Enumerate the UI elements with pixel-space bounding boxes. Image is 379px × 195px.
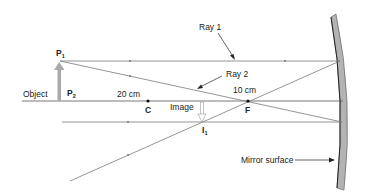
p2-label: P2 — [67, 88, 76, 99]
ray-2-arrow-marker — [129, 75, 131, 77]
p1-label: P1 — [56, 48, 65, 59]
ray-2-label: Ray 2 — [226, 69, 248, 79]
object-label: Object — [23, 89, 48, 99]
ray-2-reflected-marker — [127, 121, 129, 123]
ray-1-pointer-head — [230, 54, 235, 60]
image-label: Image — [170, 102, 194, 112]
mirror-pointer-head — [329, 158, 335, 163]
ray-1-label: Ray 1 — [199, 22, 221, 32]
i1-label: I1 — [202, 125, 207, 136]
ray-2-pointer — [200, 76, 222, 87]
ray-1-reflected — [70, 61, 340, 181]
object-arrow-shaft — [58, 68, 62, 101]
distance-f-label: 10 cm — [233, 85, 256, 95]
image-arrow-shaft — [201, 102, 204, 115]
ray-2-pointer-head — [197, 85, 203, 90]
f-label: F — [245, 105, 250, 115]
ray-1-pointer — [218, 33, 234, 58]
ray-diagram: Object P1 P2 Ray 1 Ray 2 20 cm 10 cm C F… — [0, 0, 379, 195]
object-arrow-head — [54, 62, 65, 70]
c-label: C — [145, 105, 151, 115]
distance-c-label: 20 cm — [117, 89, 140, 99]
ray-1-arrow-marker-2 — [284, 60, 286, 62]
mirror-label: Mirror surface — [241, 155, 294, 165]
focal-point — [246, 99, 249, 102]
ray-1-reflected-marker — [127, 154, 129, 156]
center-of-curvature-point — [146, 99, 149, 102]
ray-1-arrow-marker — [129, 60, 131, 62]
